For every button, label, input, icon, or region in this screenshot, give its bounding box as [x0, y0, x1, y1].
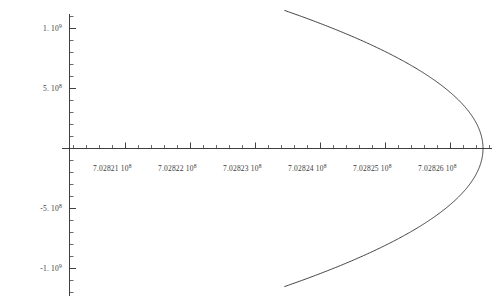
- x-axis-minor-ticks: [74, 145, 490, 149]
- y-tick-label-1e9: 1. 109: [10, 24, 62, 33]
- y-tick-label-5e8: 5. 108: [10, 84, 62, 93]
- x-tick-label-702822: 7.02822 108: [158, 164, 197, 173]
- x-tick-label-702826: 7.02826 108: [418, 164, 457, 173]
- x-axis-major-ticks: [126, 143, 451, 149]
- x-tick-label-702824: 7.02824 108: [288, 164, 327, 173]
- y-axis-minor-ticks: [70, 17, 74, 293]
- parabola-plot: 1. 109 5. 108 -5. 108 -1. 109 7.02821 10…: [0, 0, 501, 306]
- y-tick-label-neg5e8: -5. 108: [10, 204, 62, 213]
- x-tick-label-702823: 7.02823 108: [223, 164, 262, 173]
- y-tick-label-neg1e9: -1. 109: [10, 264, 62, 273]
- plot-canvas: [0, 0, 501, 306]
- x-tick-label-702825: 7.02825 108: [353, 164, 392, 173]
- x-tick-label-702821: 7.02821 108: [93, 164, 132, 173]
